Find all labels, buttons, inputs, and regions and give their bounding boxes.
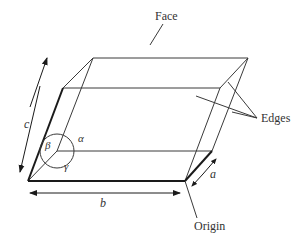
b-label: b bbox=[100, 196, 106, 210]
unit-cell-diagram: Face Edges Origin a b c α β γ bbox=[0, 0, 301, 240]
edge-top-right bbox=[220, 58, 248, 88]
origin-label: Origin bbox=[194, 219, 225, 233]
edge-back-left bbox=[57, 58, 93, 151]
edges-label: Edges bbox=[261, 111, 291, 125]
face-label: Face bbox=[155, 9, 178, 23]
face-leader bbox=[150, 24, 163, 45]
c-label: c bbox=[24, 117, 30, 131]
edge-top-left bbox=[63, 58, 93, 88]
leaders bbox=[150, 24, 257, 118]
gamma-label: γ bbox=[64, 160, 69, 172]
edge-bottom-left bbox=[28, 151, 57, 181]
edge-a-bold bbox=[185, 151, 212, 181]
parallelepiped bbox=[28, 58, 248, 218]
a-label: a bbox=[210, 167, 216, 181]
origin-leader bbox=[185, 181, 197, 218]
alpha-label: α bbox=[78, 132, 84, 144]
c-arrow bbox=[30, 58, 47, 107]
beta-label: β bbox=[44, 139, 51, 151]
edge-back-right bbox=[212, 58, 248, 151]
a-arrow-down bbox=[192, 174, 203, 186]
